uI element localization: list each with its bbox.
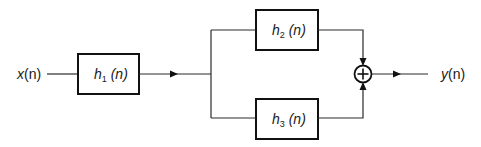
block-h2: h2 (n) <box>256 10 318 50</box>
block-h1-label: h1 (n) <box>94 66 128 84</box>
block-h3: h3 (n) <box>256 99 318 139</box>
block-h1: h1 (n) <box>78 54 139 94</box>
wire-h3-to-summer <box>318 84 363 118</box>
summing-junction <box>355 66 372 83</box>
output-label: y(n) <box>440 66 465 82</box>
arrow-icon <box>170 71 178 78</box>
wire-h2-to-summer <box>318 30 363 64</box>
block-h3-label: h3 (n) <box>272 111 306 129</box>
block-diagram: x(n) h1 (n) h2 (n) h3 (n) y(n) <box>0 0 481 147</box>
input-label: x(n) <box>16 66 41 82</box>
arrow-icon <box>393 71 401 78</box>
block-h2-label: h2 (n) <box>272 22 306 40</box>
